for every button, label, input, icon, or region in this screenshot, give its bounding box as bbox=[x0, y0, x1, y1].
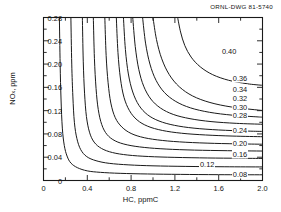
contour-value-label: 0.28 bbox=[232, 111, 248, 120]
y-axis-title: NOx, ppm bbox=[8, 61, 17, 117]
y-axis-tick-label: 0 bbox=[58, 176, 62, 185]
contour-value-label: 0.12 bbox=[199, 160, 215, 169]
contour-value-label: 0.40 bbox=[221, 47, 237, 56]
y-axis-title-base: NO bbox=[8, 94, 17, 105]
contour-value-label: 0.16 bbox=[232, 149, 248, 158]
y-axis-tick-label: 0.16 bbox=[48, 83, 62, 92]
y-axis-tick-label: 0.12 bbox=[48, 106, 62, 115]
x-axis-tick-label: 1.2 bbox=[170, 184, 180, 193]
contour-value-label: 0.34 bbox=[232, 84, 248, 93]
isopleth-figure: ORNL-DWG 81-5740 NOx, ppm HC, ppmC 00.04… bbox=[0, 0, 281, 212]
x-axis-tick-label: 1.6 bbox=[214, 184, 224, 193]
x-axis-tick-label: 0.8 bbox=[126, 184, 136, 193]
contour-value-label: 0.08 bbox=[232, 169, 248, 178]
y-axis-tick-label: 0.28 bbox=[48, 13, 62, 22]
y-axis-title-tail: , ppm bbox=[8, 72, 17, 90]
y-axis-tick-label: 0.04 bbox=[48, 153, 62, 162]
x-axis-title: HC, ppmC bbox=[0, 195, 281, 204]
contour-value-label: 0.20 bbox=[232, 139, 248, 148]
y-axis-tick-label: 0.20 bbox=[48, 60, 62, 69]
contour-value-label: 0.30 bbox=[232, 102, 248, 111]
contour-value-label: 0.36 bbox=[232, 74, 248, 83]
contour-value-label: 0.32 bbox=[232, 93, 248, 102]
y-axis-tick-label: 0.08 bbox=[48, 129, 62, 138]
y-axis-title-subscript: x bbox=[10, 91, 16, 94]
x-axis-tick-label: 2.0 bbox=[257, 184, 267, 193]
contour-value-label: 0.24 bbox=[232, 126, 248, 135]
x-axis-tick-label: 0.4 bbox=[82, 184, 92, 193]
x-axis-tick-label: 0 bbox=[41, 184, 45, 193]
y-axis-tick-label: 0.24 bbox=[48, 36, 62, 45]
axis-ticks bbox=[44, 18, 263, 181]
plot-frame bbox=[44, 18, 263, 181]
